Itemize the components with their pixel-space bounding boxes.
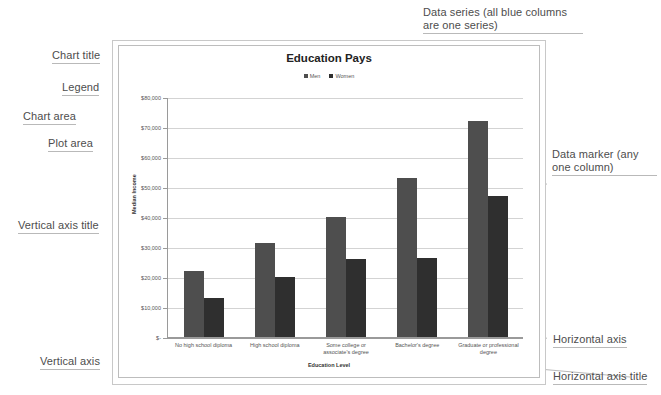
annotation-data-marker: Data marker (any one column) (552, 148, 657, 176)
horizontal-axis[interactable] (167, 337, 523, 338)
legend-label-men: Men (310, 73, 321, 79)
data-marker-bar[interactable] (468, 121, 488, 337)
diagram-root: Education Pays Men Women Median Income $… (0, 0, 661, 395)
y-axis-tick-label: $60,000 (141, 155, 161, 161)
annotation-legend: Legend (62, 81, 99, 96)
chart-area[interactable]: Education Pays Men Women Median Income $… (118, 45, 540, 378)
x-axis-category-label: High school diploma (239, 342, 310, 356)
data-marker-bar[interactable] (255, 243, 275, 338)
annotation-chart-area: Chart area (23, 110, 76, 125)
y-axis-tick-label: $50,000 (141, 185, 161, 191)
annotation-plot-area: Plot area (48, 137, 93, 152)
legend-item-women[interactable]: Women (329, 73, 354, 79)
data-marker-bar[interactable] (417, 258, 437, 338)
y-axis-tick-label: $40,000 (141, 215, 161, 221)
data-marker-bar[interactable] (397, 178, 417, 337)
x-axis-category-label: Graduate or professional degree (453, 342, 524, 356)
legend-item-men[interactable]: Men (304, 73, 321, 79)
annotation-horizontal-axis: Horizontal axis (553, 333, 627, 348)
y-axis-tick-label: $30,000 (141, 245, 161, 251)
x-axis-category-label: Bachelor's degree (382, 342, 453, 356)
x-axis-category-label: No high school diploma (168, 342, 239, 356)
chart-legend[interactable]: Men Women (119, 73, 539, 79)
data-marker-bar[interactable] (184, 271, 204, 337)
annotation-vertical-axis-title: Vertical axis title (18, 219, 99, 234)
data-marker-bar[interactable] (326, 217, 346, 337)
bar-group (239, 98, 310, 337)
x-axis-category-label: Some college or associate's degree (310, 342, 381, 356)
bar-group (168, 98, 239, 337)
vertical-axis-title: Median Income (131, 174, 137, 214)
data-marker-bar[interactable] (275, 277, 295, 337)
y-axis-tick-label: $80,000 (141, 95, 161, 101)
annotation-chart-title: Chart title (52, 49, 100, 64)
data-marker-bar[interactable] (488, 196, 508, 337)
plot-area[interactable]: $80,000$70,000$60,000$50,000$40,000$30,0… (167, 98, 523, 338)
legend-label-women: Women (335, 73, 354, 79)
bar-group (381, 98, 452, 337)
y-axis-tick-label: $20,000 (141, 275, 161, 281)
legend-swatch-women (329, 74, 333, 78)
bar-groups (168, 98, 523, 337)
annotation-data-series: Data series (all blue columns are one se… (423, 6, 583, 34)
chart-title: Education Pays (119, 52, 539, 64)
annotation-horizontal-axis-title: Horizontal axis title (553, 370, 647, 385)
y-axis-tick-label: $70,000 (141, 125, 161, 131)
y-axis-tick-label: $10,000 (141, 305, 161, 311)
data-marker-bar[interactable] (204, 298, 224, 337)
horizontal-axis-labels: No high school diplomaHigh school diplom… (168, 342, 524, 356)
legend-swatch-men (304, 74, 308, 78)
bar-group (452, 98, 523, 337)
annotation-vertical-axis: Vertical axis (40, 355, 100, 370)
bar-group (310, 98, 381, 337)
y-axis-tick (163, 338, 167, 339)
gridline (167, 338, 523, 339)
horizontal-axis-title: Education Level (119, 362, 539, 368)
y-axis-tick-label: $- (156, 335, 161, 341)
data-marker-bar[interactable] (346, 259, 366, 337)
